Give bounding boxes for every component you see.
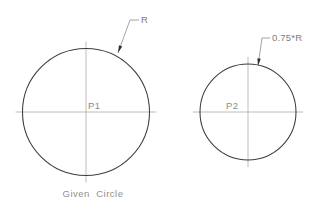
figure-scaled-circle: 0.75*R P2	[193, 32, 303, 167]
cad-drawing-svg: R P1 0.75*R P2 Given Circle	[0, 0, 328, 213]
scaled-circle-center-label: P2	[226, 100, 238, 111]
given-circle-leader-arrowhead	[118, 45, 122, 53]
figure-given-circle: R P1	[16, 14, 157, 183]
scaled-circle-leader-line	[258, 38, 270, 66]
technical-drawing-canvas: R P1 0.75*R P2 Given Circle	[0, 0, 328, 213]
given-circle-caption: Given Circle	[63, 188, 124, 199]
given-circle-center-label: P1	[88, 100, 100, 111]
scaled-circle-radius-label: 0.75*R	[272, 32, 302, 43]
given-circle-radius-label: R	[141, 14, 148, 25]
